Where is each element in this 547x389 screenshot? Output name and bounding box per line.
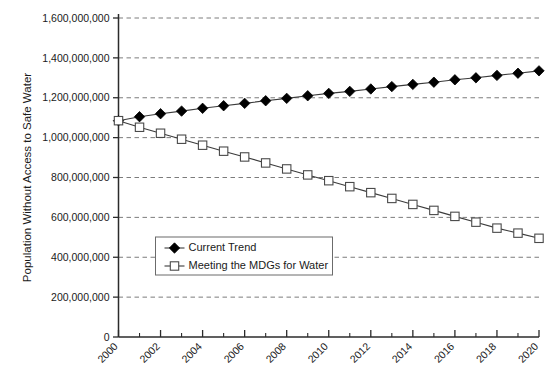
chart-container: 0200,000,000400,000,000600,000,000800,00…: [0, 0, 547, 389]
y-tick-label: 1,200,000,000: [42, 91, 109, 103]
legend-label: Current Trend: [189, 241, 257, 253]
data-point-diamond: [366, 84, 376, 94]
data-point-diamond: [345, 86, 355, 96]
x-tick-label: 2000: [95, 340, 120, 365]
data-point-diamond: [134, 111, 144, 121]
y-tick-label: 1,600,000,000: [42, 12, 109, 24]
x-tick-label: 2006: [221, 340, 246, 365]
y-tick-label: 0: [104, 331, 110, 343]
y-axis-tick-marks: [113, 18, 119, 337]
legend-label: Meeting the MDGs for Water: [189, 259, 329, 271]
data-point-diamond: [176, 106, 186, 116]
y-tick-label: 800,000,000: [51, 171, 110, 183]
x-tick-label: 2014: [389, 340, 414, 365]
x-tick-label: 2012: [347, 340, 372, 365]
y-tick-label: 400,000,000: [51, 251, 110, 263]
data-point-square: [240, 153, 248, 161]
data-point-square: [325, 176, 333, 184]
y-axis-title: Population Without Access to Safe Water: [21, 73, 33, 282]
y-tick-label: 1,400,000,000: [42, 52, 109, 64]
data-point-square: [472, 218, 480, 226]
chart-legend: Current TrendMeeting the MDGs for Water: [156, 237, 333, 275]
data-point-diamond: [197, 103, 207, 113]
data-series: [113, 66, 544, 243]
data-point-diamond: [513, 68, 523, 78]
data-point-square: [114, 116, 122, 124]
x-tick-label: 2016: [431, 340, 456, 365]
data-point-diamond: [260, 96, 270, 106]
data-point-square: [451, 212, 459, 220]
data-point-square: [367, 188, 375, 196]
data-point-square: [156, 129, 164, 137]
legend-item: Meeting the MDGs for Water: [165, 259, 329, 271]
data-point-square: [430, 206, 438, 214]
data-point-square: [283, 165, 291, 173]
data-point-square: [514, 229, 522, 237]
data-point-square: [135, 123, 143, 131]
series-meeting-the-mdgs: [114, 116, 543, 242]
y-axis-tick-labels: 0200,000,000400,000,000600,000,000800,00…: [42, 12, 109, 343]
y-tick-label: 200,000,000: [51, 291, 110, 303]
data-point-square: [409, 200, 417, 208]
data-point-diamond: [534, 66, 544, 76]
x-tick-label: 2020: [515, 340, 540, 365]
data-point-square: [388, 194, 396, 202]
data-point-square: [535, 234, 543, 242]
x-axis-tick-marks: [119, 330, 540, 337]
data-point-diamond: [471, 73, 481, 83]
x-tick-label: 2018: [473, 340, 498, 365]
data-point-square: [493, 224, 501, 232]
data-point-square: [346, 182, 354, 190]
data-point-diamond: [387, 81, 397, 91]
data-point-diamond: [239, 98, 249, 108]
x-tick-label: 2002: [137, 340, 162, 365]
x-tick-label: 2010: [305, 340, 330, 365]
x-tick-label: 2008: [263, 340, 288, 365]
series-current-trend: [113, 66, 544, 126]
data-point-diamond: [218, 101, 228, 111]
x-tick-label: 2004: [179, 340, 204, 365]
line-chart: 0200,000,000400,000,000600,000,000800,00…: [0, 0, 547, 389]
data-point-diamond: [282, 93, 292, 103]
data-point-diamond: [450, 75, 460, 85]
data-point-square: [219, 147, 227, 155]
legend-marker-square: [170, 262, 178, 270]
y-tick-label: 600,000,000: [51, 211, 110, 223]
data-point-diamond: [408, 79, 418, 89]
data-point-square: [261, 159, 269, 167]
data-point-square: [304, 171, 312, 179]
data-point-diamond: [429, 77, 439, 87]
data-point-diamond: [155, 109, 165, 119]
y-tick-label: 1,000,000,000: [42, 131, 109, 143]
data-point-square: [198, 141, 206, 149]
x-axis-tick-labels: 2000200220042006200820102012201420162018…: [95, 340, 541, 365]
data-point-diamond: [324, 88, 334, 98]
data-point-diamond: [492, 70, 502, 80]
data-point-diamond: [303, 91, 313, 101]
data-point-square: [177, 135, 185, 143]
